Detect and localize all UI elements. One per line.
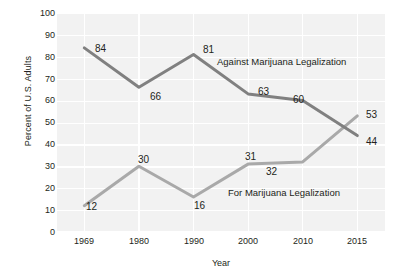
data-label-for-2010: 32 [266,167,277,177]
x-axis-title: Year [57,258,385,268]
x-tick-label: 1980 [115,236,163,246]
series-annotation-for: For Marijuana Legalization [228,188,340,198]
data-label-against-2000: 63 [258,87,269,97]
data-label-for-2015: 53 [366,110,377,120]
x-tick-label: 2000 [224,236,272,246]
data-label-for-1990: 16 [194,201,205,211]
x-tick-label: 1990 [170,236,218,246]
x-axis-tick-labels: 1969 1980 1990 2000 2010 2015 [0,0,398,278]
data-label-for-1980: 30 [138,155,149,165]
data-label-for-1969: 12 [86,202,97,212]
series-annotation-against: Against Marijuana Legalization [217,57,346,67]
data-label-against-2010: 60 [293,95,304,105]
data-label-for-2000: 31 [245,152,256,162]
data-label-against-2015: 44 [366,137,377,147]
x-tick-label: 2015 [333,236,381,246]
data-label-against-1969: 84 [95,44,106,54]
data-label-against-1980: 66 [150,92,161,102]
x-tick-label: 1969 [60,236,108,246]
line-chart: Percent of U.S. Adults 100 90 80 70 60 5… [0,0,398,278]
data-label-against-1990: 81 [203,45,214,55]
x-tick-label: 2010 [279,236,327,246]
